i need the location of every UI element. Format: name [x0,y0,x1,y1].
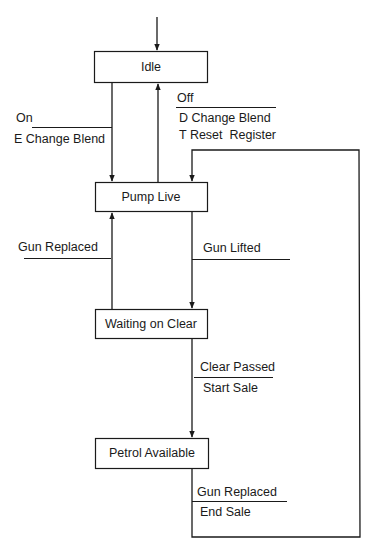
transition-gun-replaced-1-event: Gun Replaced [18,240,98,254]
transition-gun-replaced-1: Gun Replaced [18,213,112,309]
transition-gun-replaced-2-event: Gun Replaced [197,485,277,499]
transition-clear-passed: Clear Passed Start Sale [192,339,275,437]
state-petrol-available[interactable]: Petrol Available [96,439,209,469]
transition-off-action-1: D Change Blend [179,111,271,125]
state-diagram: Idle Pump Live Waiting on Clear Petrol A… [0,0,374,552]
state-label: Pump Live [121,190,180,204]
transition-clear-passed-action: Start Sale [203,381,258,395]
transition-gun-lifted: Gun Lifted [192,212,290,308]
state-label: Petrol Available [109,446,195,460]
transition-off-event: Off [177,91,194,105]
transition-on-event: On [16,111,33,125]
state-waiting-on-clear[interactable]: Waiting on Clear [96,310,208,339]
transition-off-action-2: T Reset Register [179,128,276,142]
state-pump-live[interactable]: Pump Live [96,183,208,212]
transition-gun-replaced-2: Gun Replaced End Sale [192,150,360,537]
transition-on-action: E Change Blend [14,132,105,146]
transition-on: On E Change Blend [14,83,112,181]
transition-clear-passed-event: Clear Passed [200,360,275,374]
transition-gun-replaced-2-loop [192,150,360,537]
transition-off: Off D Change Blend T Reset Register [158,84,276,182]
state-idle[interactable]: Idle [95,52,208,83]
transition-gun-replaced-2-action: End Sale [200,505,251,519]
transition-gun-lifted-event: Gun Lifted [203,241,261,255]
state-label: Idle [141,60,161,74]
state-label: Waiting on Clear [105,317,197,331]
